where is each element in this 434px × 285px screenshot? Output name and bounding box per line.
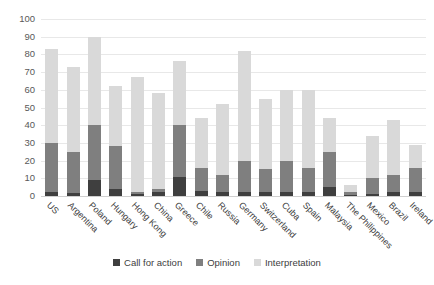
x-axis-label: China — [151, 200, 175, 224]
y-tick-label-30: 30 — [24, 138, 35, 148]
plot-area — [41, 19, 426, 196]
bar-column[interactable] — [409, 19, 422, 196]
bar-segment — [173, 125, 186, 176]
bar-column[interactable] — [195, 19, 208, 196]
bar-segment — [280, 192, 293, 196]
bar-segment — [67, 67, 80, 152]
legend-swatch-icon — [196, 259, 203, 266]
x-label-slot: Switzerland — [259, 198, 272, 258]
bar-segment — [366, 136, 379, 178]
y-tick-label-60: 60 — [24, 85, 35, 95]
bar-segment — [131, 194, 144, 196]
bar-segment — [109, 146, 122, 188]
bar-segment — [216, 192, 229, 196]
legend-label: Opinion — [207, 258, 240, 268]
x-label-slot: Argentina — [67, 198, 80, 258]
y-tick-label-40: 40 — [24, 120, 35, 130]
bar-segment — [323, 118, 336, 152]
bar-segment — [131, 77, 144, 192]
bar-segment — [152, 93, 165, 189]
bar-series-container — [41, 19, 426, 196]
y-tick-label-100: 100 — [19, 14, 35, 24]
bar-segment — [173, 177, 186, 196]
bar-column[interactable] — [302, 19, 315, 196]
bar-segment — [302, 192, 315, 196]
bar-segment — [259, 192, 272, 196]
x-label-slot: Hong Kong — [131, 198, 144, 258]
x-label-slot: Russia — [216, 198, 229, 258]
bar-column[interactable] — [366, 19, 379, 196]
bar-column[interactable] — [131, 19, 144, 196]
bar-column[interactable] — [344, 19, 357, 196]
x-label-slot: Brazil — [387, 198, 400, 258]
bar-column[interactable] — [45, 19, 58, 196]
x-label-slot: Greece — [173, 198, 186, 258]
x-label-slot: Malaysia — [323, 198, 336, 258]
bar-column[interactable] — [152, 19, 165, 196]
bar-segment — [387, 120, 400, 175]
y-tick-label-20: 20 — [24, 156, 35, 166]
bar-segment — [280, 161, 293, 193]
bar-segment — [216, 104, 229, 175]
bar-segment — [88, 180, 101, 196]
x-label-slot: Mexico — [366, 198, 379, 258]
bar-column[interactable] — [173, 19, 186, 196]
x-label-slot: Cuba — [280, 198, 293, 258]
bar-segment — [259, 99, 272, 170]
bar-segment — [387, 192, 400, 196]
bar-segment — [45, 143, 58, 193]
bar-segment — [195, 118, 208, 168]
bar-segment — [323, 187, 336, 196]
bar-segment — [409, 145, 422, 168]
x-axis-label: Brazil — [387, 200, 410, 223]
y-tick-label-10: 10 — [24, 174, 35, 184]
y-tick-label-90: 90 — [24, 32, 35, 42]
bar-segment — [195, 168, 208, 191]
bar-segment — [238, 192, 251, 196]
x-axis-label: Ireland — [408, 200, 434, 227]
bar-segment — [302, 90, 315, 168]
x-label-slot: Poland — [88, 198, 101, 258]
bar-segment — [109, 86, 122, 146]
bar-column[interactable] — [323, 19, 336, 196]
chart-legend: Call for actionOpinionInterpretation — [0, 258, 434, 268]
legend-item[interactable]: Call for action — [113, 258, 182, 268]
bar-segment — [88, 37, 101, 126]
bar-segment — [152, 192, 165, 196]
bar-segment — [323, 152, 336, 187]
bar-column[interactable] — [259, 19, 272, 196]
bar-column[interactable] — [88, 19, 101, 196]
bar-segment — [67, 152, 80, 194]
bar-segment — [259, 169, 272, 192]
x-label-slot: China — [152, 198, 165, 258]
bar-segment — [344, 185, 357, 192]
legend-swatch-icon — [254, 259, 261, 266]
x-axis-labels: USArgentinaPolandHungaryHong KongChinaGr… — [41, 198, 426, 258]
bar-column[interactable] — [238, 19, 251, 196]
bar-column[interactable] — [109, 19, 122, 196]
bar-segment — [344, 195, 357, 196]
x-label-slot: The Philippines — [344, 198, 357, 258]
legend-label: Interpretation — [265, 258, 321, 268]
bar-segment — [238, 51, 251, 161]
x-label-slot: Spain — [302, 198, 315, 258]
bar-column[interactable] — [216, 19, 229, 196]
bar-segment — [45, 192, 58, 196]
bar-segment — [238, 161, 251, 193]
x-label-slot: Germany — [238, 198, 251, 258]
x-axis-label: US — [45, 200, 61, 216]
x-axis-label: Spain — [301, 200, 324, 223]
legend-item[interactable]: Opinion — [196, 258, 240, 268]
bar-column[interactable] — [280, 19, 293, 196]
stacked-bar-chart: 0102030405060708090100 USArgentinaPoland… — [0, 0, 434, 285]
bar-segment — [366, 194, 379, 196]
bar-segment — [409, 192, 422, 196]
bar-segment — [366, 178, 379, 194]
bar-segment — [109, 189, 122, 196]
x-axis-label: Chile — [194, 200, 216, 222]
gridline-0 — [41, 196, 426, 197]
bar-segment — [195, 191, 208, 196]
legend-item[interactable]: Interpretation — [254, 258, 321, 268]
bar-column[interactable] — [387, 19, 400, 196]
bar-column[interactable] — [67, 19, 80, 196]
